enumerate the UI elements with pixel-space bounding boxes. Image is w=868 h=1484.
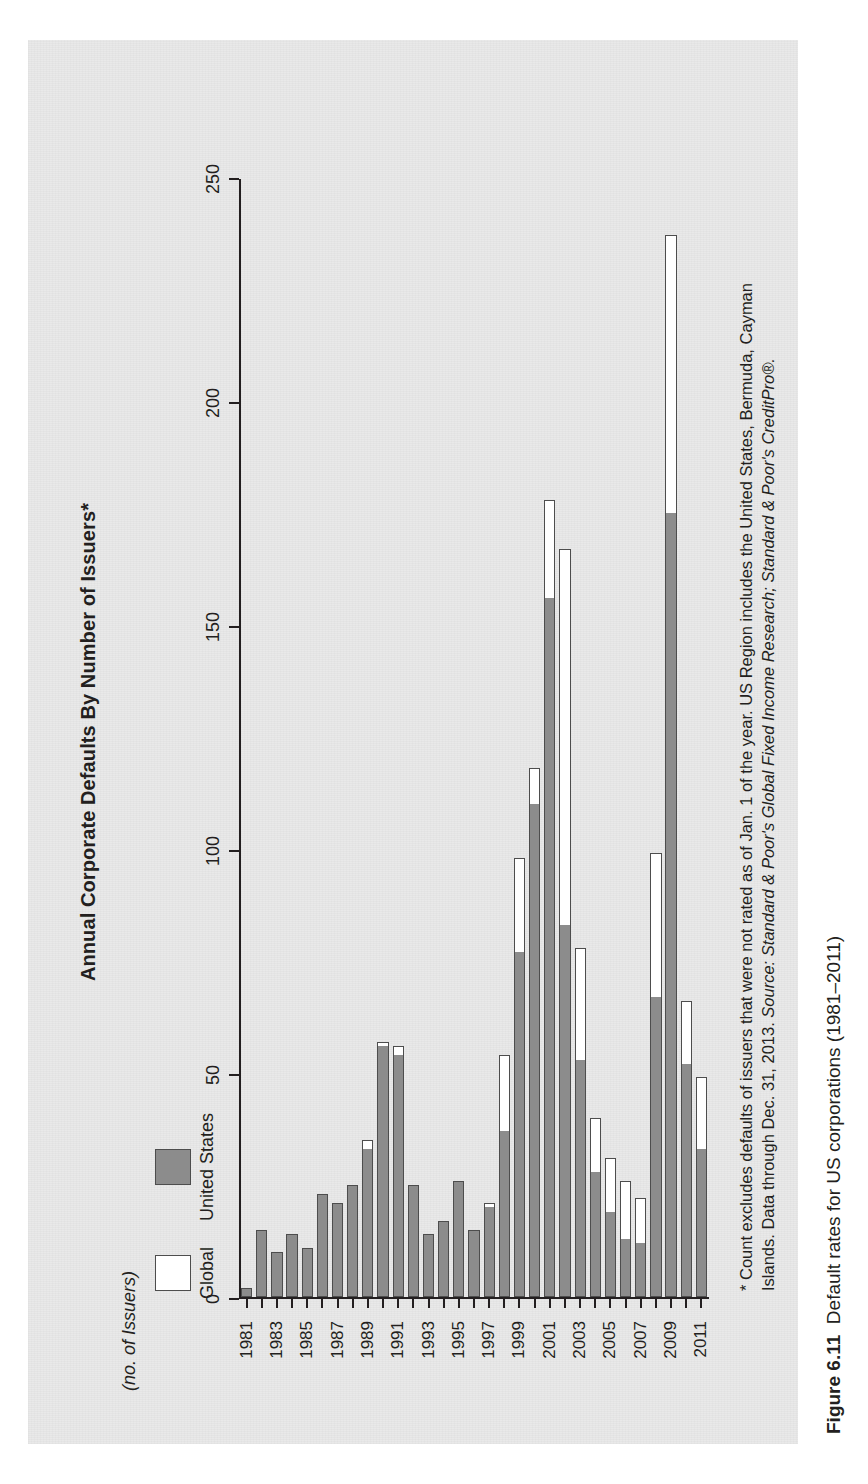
category-tick-label: 1989 (358, 1321, 378, 1359)
bar-segment-united-states (681, 1064, 692, 1297)
category-tick-label: 1993 (419, 1321, 439, 1359)
bar-row (665, 235, 676, 1297)
bar-segment-global (635, 1198, 646, 1243)
category-tick (261, 1299, 263, 1308)
category-tick (382, 1299, 384, 1308)
bar-segment-united-states (499, 1131, 510, 1297)
bar-segment-global (484, 1203, 495, 1207)
bar-row (302, 1248, 313, 1297)
category-tick (518, 1299, 520, 1308)
category-tick (458, 1299, 460, 1308)
bar-segment-global (377, 1042, 388, 1046)
category-tick-label: 2009 (661, 1321, 681, 1359)
chart-footnote: * Count excludes defaults of issuers tha… (735, 111, 779, 1291)
category-tick (337, 1299, 339, 1308)
bar-row (453, 1181, 464, 1297)
category-tick (609, 1299, 611, 1308)
bar-segment-united-states (438, 1221, 449, 1297)
value-tick-label: 250 (203, 164, 224, 194)
bar-segment-united-states (347, 1185, 358, 1297)
bar-row (681, 1001, 692, 1297)
category-tick (488, 1299, 490, 1308)
bar-segment-global (514, 858, 525, 952)
bar-row (408, 1185, 419, 1297)
bar-segment-global (681, 1001, 692, 1064)
category-tick (306, 1299, 308, 1308)
bar-row (514, 858, 525, 1297)
bar-segment-united-states (302, 1248, 313, 1297)
chart-legend: Global United States (155, 1113, 218, 1299)
value-tick (229, 178, 239, 180)
figure-caption-text: Default rates for US corporations (1981–… (823, 936, 844, 1324)
value-tick-label: 100 (203, 836, 224, 866)
category-tick (670, 1299, 672, 1308)
bar-segment-global (499, 1055, 510, 1131)
bar-row (635, 1198, 646, 1297)
value-tick (229, 1074, 239, 1076)
bar-segment-united-states (332, 1203, 343, 1297)
category-tick (534, 1299, 536, 1308)
bar-segment-global (696, 1078, 707, 1150)
bar-row (620, 1181, 631, 1297)
category-tick (625, 1299, 627, 1308)
bar-segment-united-states (317, 1194, 328, 1297)
bar-row (362, 1140, 373, 1297)
category-tick (549, 1299, 551, 1308)
bar-segment-united-states (362, 1149, 373, 1297)
category-tick-label: 2005 (600, 1321, 620, 1359)
category-tick (367, 1299, 369, 1308)
category-tick (655, 1299, 657, 1308)
bar-row (438, 1221, 449, 1297)
bar-segment-united-states (605, 1212, 616, 1297)
category-tick-label: 2003 (570, 1321, 590, 1359)
bar-segment-united-states (529, 804, 540, 1297)
legend-swatch-global-icon (155, 1255, 191, 1291)
category-tick-label: 1999 (509, 1321, 529, 1359)
category-tick (397, 1299, 399, 1308)
value-tick-label: 150 (203, 612, 224, 642)
bar-row (317, 1194, 328, 1297)
category-tick-label: 2007 (631, 1321, 651, 1359)
rotated-chart-stage: Annual Corporate Defaults By Number of I… (63, 77, 763, 1407)
category-tick (443, 1299, 445, 1308)
value-tick-label: 50 (203, 1065, 224, 1085)
bar-segment-united-states (393, 1055, 404, 1297)
figure-caption: Figure 6.11 Default rates for US corpora… (823, 54, 845, 1434)
value-tick (229, 626, 239, 628)
bar-segment-united-states (575, 1060, 586, 1297)
legend-item-united-states: United States (155, 1113, 218, 1221)
figure-caption-label: Figure 6.11 (823, 1335, 844, 1434)
value-tick-label: 0 (203, 1294, 224, 1304)
bar-segment-global (559, 549, 570, 925)
bar-segment-united-states (650, 997, 661, 1297)
category-tick (428, 1299, 430, 1308)
bar-segment-united-states (484, 1207, 495, 1297)
bar-segment-united-states (408, 1185, 419, 1297)
bar-segment-global (665, 235, 676, 513)
category-tick-label: 1987 (328, 1321, 348, 1359)
bar-segment-global (605, 1158, 616, 1212)
bar-row (393, 1046, 404, 1297)
bar-segment-united-states (271, 1252, 282, 1297)
plot-area: 050100150200250 198119831985198719891991… (239, 179, 709, 1299)
value-tick (229, 850, 239, 852)
legend-label-united-states: United States (197, 1113, 218, 1221)
category-tick (276, 1299, 278, 1308)
bar-row (544, 500, 555, 1297)
bar-row (256, 1230, 267, 1297)
bar-row (575, 948, 586, 1297)
legend-swatch-united-states-icon (155, 1149, 191, 1185)
bar-row (468, 1230, 479, 1297)
category-tick-label: 1991 (388, 1321, 408, 1359)
bar-segment-united-states (696, 1149, 707, 1297)
footnote-line-2-plain: Islands. Data through Dec. 31, 2013. (759, 1018, 777, 1291)
category-tick-label: 1985 (297, 1321, 317, 1359)
bar-row (271, 1252, 282, 1297)
bar-row (347, 1185, 358, 1297)
bar-segment-global (529, 768, 540, 804)
footnote-line-2-source: Source: Standard & Poor's Global Fixed I… (759, 358, 777, 1018)
bar-segment-united-states (590, 1172, 601, 1297)
bar-segment-global (590, 1118, 601, 1172)
bar-row (529, 768, 540, 1297)
category-tick (564, 1299, 566, 1308)
